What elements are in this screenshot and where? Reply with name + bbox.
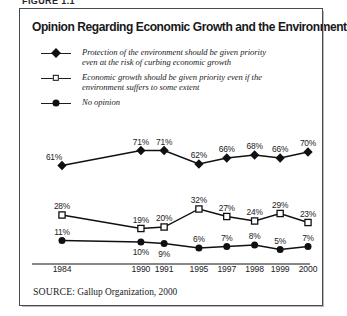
data-point-filled-diamond[interactable] <box>222 153 231 162</box>
data-point-label: 28% <box>54 201 70 211</box>
data-point-filled-circle[interactable] <box>223 243 230 250</box>
data-point-label: 66% <box>219 144 235 154</box>
legend-line-2: even at the risk of curbing economic gro… <box>82 57 231 67</box>
data-point-label: 29% <box>272 200 288 210</box>
data-point-open-square[interactable] <box>252 218 258 224</box>
data-point-label: 24% <box>247 207 263 217</box>
data-point-filled-circle[interactable] <box>137 239 144 246</box>
data-point-label: 62% <box>191 150 207 160</box>
data-point-label: 5% <box>274 236 286 246</box>
chart-title: Opinion Regarding Economic Growth and th… <box>32 20 347 34</box>
legend-item-environment-priority: Protection of the environment should be … <box>34 47 310 68</box>
legend-item-label: No opinion <box>78 97 120 107</box>
data-point-label: 61% <box>46 152 62 162</box>
legend-item-label: Economic growth should be given priority… <box>78 72 262 93</box>
data-point-open-square[interactable] <box>305 219 311 225</box>
data-point-filled-circle[interactable] <box>195 245 202 252</box>
legend-line-1: No opinion <box>82 97 120 107</box>
data-point-filled-diamond[interactable] <box>250 150 259 159</box>
data-point-filled-diamond[interactable] <box>275 153 284 162</box>
data-point-label: 66% <box>272 144 288 154</box>
data-point-label: 71% <box>133 137 149 147</box>
x-axis-tick-labels: 19841990199119951997199819992000 <box>20 264 322 278</box>
data-point-label: 32% <box>191 195 207 205</box>
chart-legend: Protection of the environment should be … <box>34 47 310 114</box>
source-label: SOURCE <box>33 286 72 297</box>
data-point-filled-circle[interactable] <box>161 240 168 247</box>
data-point-label: 7% <box>302 233 314 243</box>
x-axis-tick-1984: 1984 <box>53 264 72 274</box>
data-point-label: 7% <box>221 233 233 243</box>
data-point-filled-circle[interactable] <box>251 242 258 249</box>
legend-item-label: Protection of the environment should be … <box>78 47 266 68</box>
x-axis-tick-1998: 1998 <box>245 264 264 274</box>
x-axis-tick-2000: 2000 <box>299 264 318 274</box>
data-point-label: 23% <box>300 209 316 219</box>
data-point-label: 19% <box>133 215 149 225</box>
series-line <box>62 241 308 250</box>
data-point-open-square[interactable] <box>161 224 167 230</box>
filled-diamond-marker-icon <box>34 47 78 60</box>
legend-line-2: environment suffers to some extent <box>82 82 199 92</box>
filled-circle-marker-icon <box>34 97 78 110</box>
x-axis-tick-1995: 1995 <box>190 264 209 274</box>
data-point-filled-diamond[interactable] <box>159 146 168 155</box>
x-axis-tick-1990: 1990 <box>132 264 151 274</box>
data-point-open-square[interactable] <box>138 225 144 231</box>
source-text: : Gallup Organization, 2000 <box>72 287 177 297</box>
data-point-filled-diamond[interactable] <box>194 159 203 168</box>
series-line <box>62 209 308 229</box>
legend-line-1: Economic growth should be given priority… <box>82 72 262 82</box>
figure-caption: FIGURE 1.1 <box>22 0 75 4</box>
legend-item-economic-priority: Economic growth should be given priority… <box>34 72 310 93</box>
data-point-open-square[interactable] <box>196 206 202 212</box>
data-point-label: 68% <box>247 141 263 151</box>
data-point-label: 9% <box>158 249 170 259</box>
data-point-open-square[interactable] <box>59 212 65 218</box>
data-point-label: 11% <box>54 227 70 237</box>
data-point-label: 70% <box>300 138 316 148</box>
x-axis-tick-1997: 1997 <box>217 264 236 274</box>
data-point-filled-circle[interactable] <box>305 243 312 250</box>
data-point-label: 8% <box>249 231 261 241</box>
x-axis-tick-1999: 1999 <box>271 264 290 274</box>
open-square-marker-icon <box>34 72 78 85</box>
data-point-label: 6% <box>193 234 205 244</box>
x-axis-tick-1991: 1991 <box>155 264 174 274</box>
data-point-label: 71% <box>156 137 172 147</box>
legend-line-1: Protection of the environment should be … <box>82 47 266 57</box>
data-point-open-square[interactable] <box>277 210 283 216</box>
data-point-label: 27% <box>219 203 235 213</box>
data-point-label: 20% <box>156 213 172 223</box>
data-point-filled-diamond[interactable] <box>303 147 312 156</box>
data-point-filled-diamond[interactable] <box>57 161 66 170</box>
source-note: SOURCE: Gallup Organization, 2000 <box>33 286 177 297</box>
data-point-filled-diamond[interactable] <box>136 146 145 155</box>
data-point-filled-circle[interactable] <box>59 237 66 244</box>
line-chart-plot-area: 61%71%71%62%66%68%66%70%28%19%20%32%27%2… <box>20 117 322 269</box>
data-point-open-square[interactable] <box>224 213 230 219</box>
legend-item-no-opinion: No opinion <box>34 97 310 110</box>
data-point-label: 10% <box>133 247 149 257</box>
data-point-filled-circle[interactable] <box>277 246 284 253</box>
figure-frame: Opinion Regarding Economic Growth and th… <box>19 8 323 306</box>
